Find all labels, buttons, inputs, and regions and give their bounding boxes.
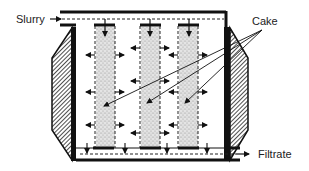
slurry-manifold: [60, 11, 226, 27]
slurry-label: Slurry: [16, 13, 45, 25]
left-end-plate: [52, 27, 76, 161]
cake-column-3: [179, 27, 198, 147]
filtrate-manifold: [74, 146, 240, 161]
cake-label: Cake: [252, 15, 278, 27]
filtrate-label: Filtrate: [258, 148, 292, 160]
filter-press-diagram: Slurry: [0, 0, 309, 171]
cake-column-1: [96, 27, 115, 147]
cake-columns: [96, 27, 198, 147]
